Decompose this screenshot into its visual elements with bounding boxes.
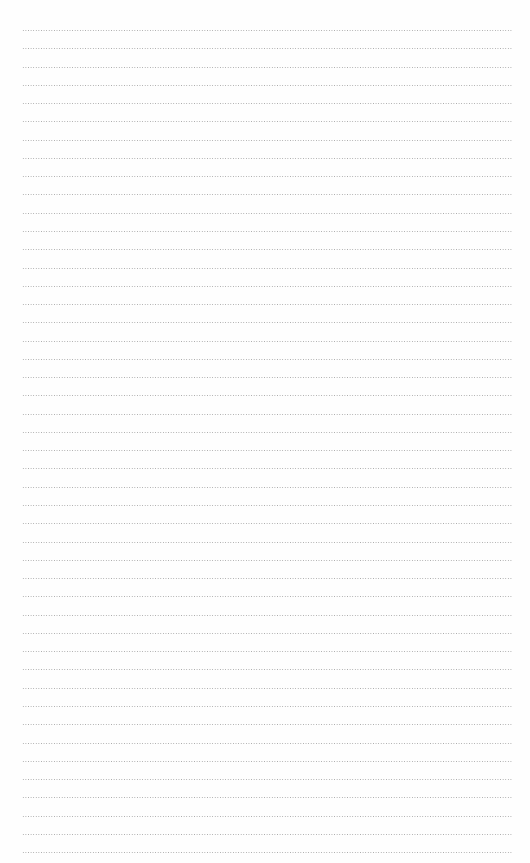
dotted-rule-line [22,505,512,506]
dotted-rule-line [22,706,512,707]
dotted-rule-line [22,286,512,287]
dotted-rule-line [22,304,512,305]
dotted-rule-line [22,213,512,214]
dotted-rule-line [22,596,512,597]
dotted-rule-line [22,615,512,616]
dotted-rule-line [22,359,512,360]
dotted-rule-line [22,688,512,689]
dotted-rule-line [22,268,512,269]
dotted-rule-line [22,669,512,670]
dotted-rule-line [22,761,512,762]
dotted-rule-line [22,432,512,433]
dotted-rule-line [22,176,512,177]
dotted-rule-line [22,249,512,250]
dotted-rule-line [22,194,512,195]
dotted-rule-line [22,487,512,488]
dotted-rule-line [22,797,512,798]
dotted-rule-line [22,231,512,232]
dotted-rule-line [22,560,512,561]
dotted-rule-line [22,468,512,469]
dotted-rule-line [22,834,512,835]
lined-paper-page [0,0,530,863]
dotted-rule-line [22,67,512,68]
dotted-rule-line [22,743,512,744]
dotted-rule-line [22,395,512,396]
dotted-rule-line [22,140,512,141]
dotted-rule-line [22,414,512,415]
dotted-rule-line [22,450,512,451]
dotted-rule-line [22,542,512,543]
dotted-rule-line [22,633,512,634]
dotted-rule-line [22,779,512,780]
dotted-rule-line [22,724,512,725]
dotted-rule-line [22,341,512,342]
dotted-rule-line [22,578,512,579]
dotted-rule-line [22,85,512,86]
dotted-rule-line [22,158,512,159]
dotted-rule-line [22,852,512,853]
dotted-rule-line [22,651,512,652]
dotted-rule-line [22,377,512,378]
dotted-rule-line [22,322,512,323]
dotted-rule-line [22,103,512,104]
dotted-rule-line [22,121,512,122]
dotted-rule-line [22,523,512,524]
dotted-rule-line [22,48,512,49]
dotted-rule-line [22,30,512,31]
dotted-rule-line [22,816,512,817]
